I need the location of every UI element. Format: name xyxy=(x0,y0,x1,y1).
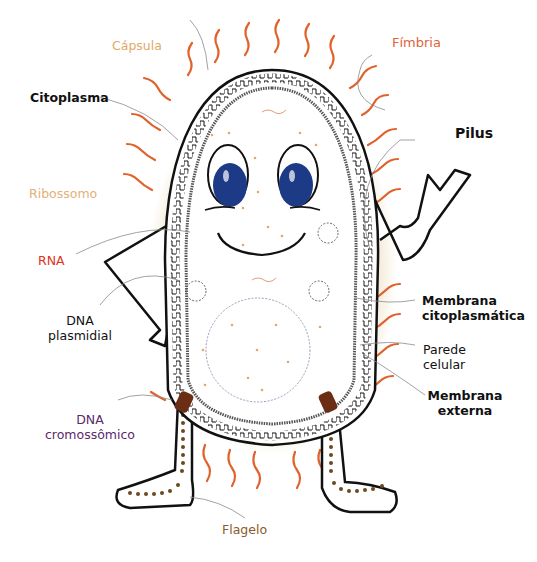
label-pilus: Pilus xyxy=(455,126,493,141)
label-dna-plasmidial-line1: DNA xyxy=(45,313,115,328)
label-dna-cromossomico-line2: cromossômico xyxy=(40,427,140,442)
label-citoplasma: Citoplasma xyxy=(30,90,109,105)
label-membrana-citoplasmatica-line2: citoplasmática xyxy=(422,308,525,323)
label-ribossomo: Ribossomo xyxy=(29,186,97,201)
label-membrana-externa-line1: Membrana xyxy=(425,388,505,403)
bacterium-diagram: Cápsula Fímbria Citoplasma Pilus Ribosso… xyxy=(0,0,537,562)
label-parede-celular-line2: celular xyxy=(423,357,466,372)
label-capsula: Cápsula xyxy=(112,38,162,53)
label-fimbria: Fímbria xyxy=(392,35,441,50)
label-flagelo: Flagelo xyxy=(222,522,267,537)
label-membrana-externa: Membrana externa xyxy=(425,388,505,418)
label-parede-celular: Parede celular xyxy=(423,342,466,372)
bacterium-illustration xyxy=(0,0,537,562)
label-membrana-citoplasmatica: Membrana citoplasmática xyxy=(422,293,525,323)
label-dna-cromossomico: DNA cromossômico xyxy=(40,412,140,442)
label-rna: RNA xyxy=(38,253,65,268)
label-membrana-citoplasmatica-line1: Membrana xyxy=(422,293,525,308)
label-dna-plasmidial-line2: plasmidial xyxy=(45,328,115,343)
label-dna-cromossomico-line1: DNA xyxy=(40,412,140,427)
label-parede-celular-line1: Parede xyxy=(423,342,466,357)
cytoplasmic-membrane xyxy=(186,88,356,424)
label-dna-plasmidial: DNA plasmidial xyxy=(45,313,115,343)
label-membrana-externa-line2: externa xyxy=(425,403,505,418)
